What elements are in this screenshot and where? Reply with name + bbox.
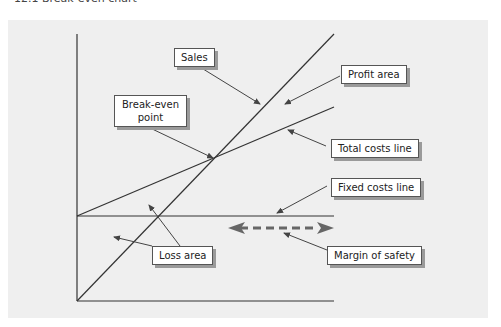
break-even-chart: [0, 0, 501, 327]
pointer-total-costs: [288, 130, 326, 146]
pointer-margin: [284, 233, 327, 250]
label-total-costs-line: Total costs line: [331, 139, 419, 158]
pointer-break-even: [148, 127, 213, 158]
pointer-profit: [285, 76, 340, 104]
label-loss-area: Loss area: [152, 246, 213, 265]
pointer-loss-1: [114, 237, 152, 246]
label-break-even-line1: Break-even: [122, 98, 179, 111]
label-margin-of-safety: Margin of safety: [327, 246, 422, 265]
label-break-even-line2: point: [122, 111, 179, 124]
margin-of-safety-arrow: [228, 222, 334, 234]
pointer-sales: [195, 64, 260, 104]
pointer-fixed-costs: [277, 186, 327, 213]
label-break-even-point: Break-even point: [114, 95, 187, 127]
pointer-loss-2: [149, 205, 180, 246]
label-fixed-costs-line: Fixed costs line: [331, 178, 421, 197]
label-sales: Sales: [174, 48, 215, 67]
label-profit-area: Profit area: [341, 65, 407, 84]
